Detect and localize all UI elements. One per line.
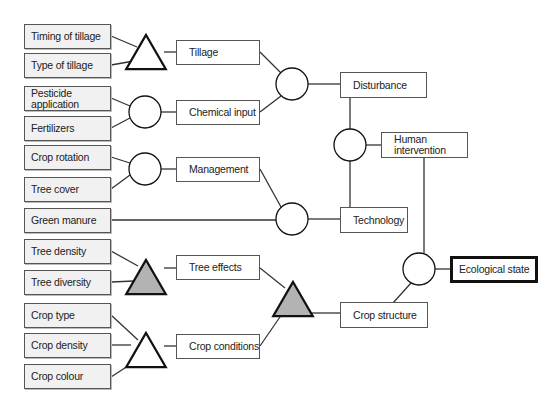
circle-node-circ-ecological <box>403 253 435 285</box>
box-chemical-input: Chemical input <box>176 100 260 125</box>
box-label: Human intervention <box>394 134 467 156</box>
box-management: Management <box>176 157 260 182</box>
box-technology: Technology <box>340 207 408 233</box>
connector-line <box>111 315 138 340</box>
box-tillage: Tillage <box>176 40 260 65</box>
box-crop-type: Crop type <box>24 303 111 328</box>
circle-node-circ-human <box>334 129 366 161</box>
connector-line <box>260 52 281 73</box>
box-green-manure: Green manure <box>24 208 111 233</box>
box-label: Management <box>189 164 248 175</box>
box-ecological-state: Ecological state <box>450 256 538 283</box>
box-type-of-tillage: Type of tillage <box>24 53 111 78</box>
box-pesticide-application: Pesticide application <box>24 86 111 111</box>
box-crop-density: Crop density <box>24 333 111 358</box>
triangle-node-tri-tree-effects <box>126 260 166 294</box>
box-label: Tree diversity <box>31 277 91 288</box>
box-label: Chemical input <box>189 107 256 118</box>
connector-line <box>260 314 282 346</box>
connector-line <box>111 118 130 128</box>
box-tree-effects: Tree effects <box>176 255 260 280</box>
circle-node-circ-disturbance <box>276 68 308 100</box>
connector-line <box>111 36 137 47</box>
box-label: Technology <box>353 215 404 226</box>
box-tree-cover: Tree cover <box>24 177 111 202</box>
circle-node-circ-technology <box>276 203 308 235</box>
box-disturbance: Disturbance <box>340 72 427 98</box>
box-label: Pesticide application <box>31 88 110 110</box>
connector-line <box>260 96 281 112</box>
box-crop-rotation: Crop rotation <box>24 145 111 170</box>
box-label: Crop density <box>31 340 88 351</box>
triangle-node-tri-tillage <box>126 35 166 69</box>
box-label: Crop type <box>31 310 75 321</box>
connector-line <box>111 98 130 106</box>
box-label: Timing of tillage <box>31 31 101 42</box>
box-label: Type of tillage <box>31 60 93 71</box>
box-crop-structure: Crop structure <box>340 302 428 328</box>
circle-node-circ-chemical <box>129 96 161 128</box>
connector-line <box>111 157 130 163</box>
box-label: Crop structure <box>353 310 417 321</box>
triangle-node-tri-crop-structure <box>273 282 313 316</box>
connector-line <box>260 169 281 207</box>
box-fertilizers: Fertilizers <box>24 116 111 141</box>
box-label: Crop colour <box>31 371 83 382</box>
box-crop-colour: Crop colour <box>24 364 111 389</box>
box-label: Crop conditions <box>189 341 259 352</box>
box-crop-conditions: Crop conditions <box>176 334 260 359</box>
box-label: Fertilizers <box>31 123 74 134</box>
box-label: Disturbance <box>353 80 407 91</box>
box-label: Ecological state <box>459 264 529 275</box>
box-human-intervention: Human intervention <box>381 132 468 158</box>
connector-line <box>260 268 285 288</box>
diagram-canvas: Timing of tillageType of tillagePesticid… <box>0 0 559 406</box>
box-tree-diversity: Tree diversity <box>24 270 111 295</box>
connector-line <box>111 281 134 282</box>
box-label: Tree cover <box>31 184 79 195</box>
box-label: Tillage <box>189 47 218 58</box>
box-label: Green manure <box>31 215 96 226</box>
circle-node-circ-management <box>129 153 161 185</box>
box-label: Tree effects <box>189 262 241 273</box>
box-label: Crop rotation <box>31 152 89 163</box>
box-tree-density: Tree density <box>24 239 111 264</box>
connector-line <box>111 251 138 266</box>
connector-line <box>111 175 130 189</box>
triangle-node-tri-crop-conditions <box>126 333 166 367</box>
box-label: Tree density <box>31 246 86 257</box>
box-timing-of-tillage: Timing of tillage <box>24 24 111 49</box>
